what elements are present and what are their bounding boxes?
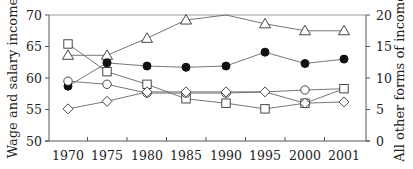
right-tick-label: 0 xyxy=(376,134,384,149)
open-diamond-marker xyxy=(339,97,349,107)
filled-circle-marker xyxy=(182,63,190,71)
open-triangle-marker xyxy=(142,33,153,43)
line-chart: 5055606570051015201970197519801985199019… xyxy=(0,0,413,169)
filled-circle-marker xyxy=(103,59,111,67)
filled-circle-marker xyxy=(301,60,309,68)
open-square-marker xyxy=(222,99,230,107)
x-tick-label: 1980 xyxy=(131,148,163,163)
open-square-marker xyxy=(261,105,269,113)
x-tick-label: 2000 xyxy=(289,148,321,163)
x-tick-label: 2001 xyxy=(328,148,360,163)
open-triangle-marker xyxy=(339,25,350,35)
open-diamond-marker xyxy=(63,104,73,114)
right-tick-label: 10 xyxy=(376,71,392,86)
filled-circle-marker xyxy=(143,62,151,70)
x-tick-label: 1970 xyxy=(52,148,84,163)
open-diamond-marker xyxy=(102,96,112,106)
right-axis-title: All other forms of income xyxy=(392,0,407,163)
left-tick-label: 65 xyxy=(26,39,42,54)
left-tick-label: 60 xyxy=(26,71,42,86)
x-tick-label: 1985 xyxy=(170,148,202,163)
left-tick-label: 70 xyxy=(26,8,42,23)
left-tick-label: 55 xyxy=(26,102,42,117)
open-circle-marker xyxy=(64,77,72,85)
open-triangle-marker xyxy=(102,50,113,60)
right-tick-label: 15 xyxy=(376,39,392,54)
series-group xyxy=(63,15,350,114)
right-tick-label: 20 xyxy=(376,8,392,23)
right-tick-label: 5 xyxy=(376,102,384,117)
x-tick-label: 1975 xyxy=(91,148,123,163)
open-triangle-marker xyxy=(63,50,74,60)
open-square-marker xyxy=(340,85,348,93)
open-square-marker xyxy=(103,68,111,76)
open-circle-marker xyxy=(103,80,111,88)
filled-circle-marker xyxy=(261,48,269,56)
filled-circle-marker xyxy=(340,55,348,63)
left-tick-label: 50 xyxy=(26,134,42,149)
left-axis-title: Wage and salary income xyxy=(5,0,20,158)
open-circle-marker xyxy=(301,86,309,94)
x-tick-label: 1990 xyxy=(210,148,242,163)
filled-circle-marker xyxy=(222,62,230,70)
x-tick-label: 1995 xyxy=(249,148,281,163)
open-square-marker xyxy=(64,40,72,48)
open-diamond-marker xyxy=(260,87,270,97)
